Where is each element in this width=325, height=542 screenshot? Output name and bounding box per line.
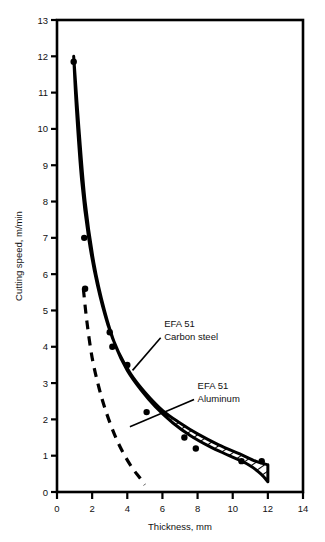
- x-tick-label: 10: [227, 503, 238, 514]
- y-tick-label: 0: [43, 487, 48, 498]
- y-tick-label: 6: [43, 269, 48, 280]
- y-tick-label: 1: [43, 450, 48, 461]
- x-tick-label: 8: [195, 503, 200, 514]
- y-tick-label: 4: [43, 341, 48, 352]
- y-tick-label: 9: [43, 160, 48, 171]
- annotation-label-carbon-steel: EFA 51: [164, 318, 195, 329]
- data-point-marker: [107, 329, 113, 335]
- y-tick-label: 11: [38, 87, 48, 98]
- annotation-label-aluminum: EFA 51: [198, 380, 229, 391]
- x-tick-label: 14: [298, 503, 309, 514]
- y-tick-label: 12: [37, 51, 48, 62]
- y-tick-label: 3: [43, 378, 48, 389]
- y-tick-label: 13: [37, 15, 48, 26]
- y-tick-label: 2: [43, 414, 48, 425]
- y-tick-label: 10: [37, 123, 48, 134]
- y-axis-title: Cutting speed, m/min: [13, 211, 24, 301]
- x-tick-label: 6: [160, 503, 165, 514]
- data-point-marker: [109, 344, 115, 350]
- data-point-marker: [238, 458, 244, 464]
- cutting-speed-vs-thickness-chart: 02468101214 012345678910111213 EFA 51Car…: [0, 0, 325, 542]
- x-tick-label: 12: [263, 503, 274, 514]
- annotation-sublabel-aluminum: Aluminum: [198, 393, 240, 404]
- data-point-marker: [193, 445, 199, 451]
- y-tick-label: 5: [43, 305, 48, 316]
- x-tick-label: 2: [89, 503, 94, 514]
- chart-background: [0, 0, 325, 542]
- data-point-marker: [81, 235, 87, 241]
- x-tick-label: 4: [125, 503, 130, 514]
- y-tick-label: 7: [43, 232, 48, 243]
- x-axis-title: Thickness, mm: [148, 521, 212, 532]
- x-tick-label: 0: [54, 503, 59, 514]
- data-point-marker: [143, 409, 149, 415]
- data-point-marker: [181, 434, 187, 440]
- data-point-marker: [70, 59, 76, 65]
- chart-container: 02468101214 012345678910111213 EFA 51Car…: [0, 0, 325, 542]
- data-point-marker: [259, 458, 265, 464]
- annotation-sublabel-carbon-steel: Carbon steel: [164, 331, 218, 342]
- data-point-marker: [124, 362, 130, 368]
- y-tick-label: 8: [43, 196, 48, 207]
- data-point-marker: [82, 285, 88, 291]
